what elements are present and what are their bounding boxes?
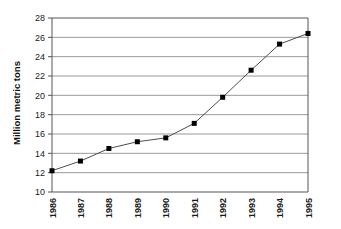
y-tick-label: 24 (35, 52, 45, 62)
x-tick-label: 1989 (133, 198, 143, 218)
data-point-marker (50, 168, 55, 173)
x-tick-label: 1988 (104, 198, 114, 218)
x-tick-label: 1993 (247, 198, 257, 218)
y-tick-label: 20 (35, 91, 45, 101)
data-point-marker (220, 95, 225, 100)
data-point-marker (306, 31, 311, 36)
y-tick-label: 10 (35, 187, 45, 197)
x-tick-label: 1992 (218, 198, 228, 218)
y-tick-label: 14 (35, 149, 45, 159)
x-tick-label: 1994 (275, 198, 285, 218)
line-chart: 10121416182022242628 1986198719881989199… (0, 0, 341, 229)
data-point-marker (277, 42, 282, 47)
x-tick-label: 1987 (76, 198, 86, 218)
x-tick-label: 1986 (48, 198, 58, 218)
y-tick-label: 16 (35, 129, 45, 139)
x-tick-label: 1995 (304, 198, 314, 218)
data-point-marker (106, 146, 111, 151)
x-tick-label: 1990 (161, 198, 171, 218)
y-tick-label: 28 (35, 13, 45, 23)
data-point-marker (78, 159, 83, 164)
y-axis-title: Million metric tons (11, 61, 22, 145)
y-tick-label: 26 (35, 33, 45, 43)
data-point-marker (135, 139, 140, 144)
y-tick-label: 22 (35, 71, 45, 81)
y-tick-label: 18 (35, 110, 45, 120)
chart-container: 10121416182022242628 1986198719881989199… (0, 0, 341, 229)
data-point-marker (192, 121, 197, 126)
y-tick-label: 12 (35, 168, 45, 178)
data-point-marker (249, 68, 254, 73)
x-tick-label: 1991 (190, 198, 200, 218)
data-point-marker (163, 135, 168, 140)
